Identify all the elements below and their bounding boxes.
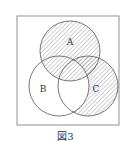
figure-caption: 図3 — [0, 128, 131, 141]
label-a: A — [66, 37, 74, 47]
label-b: B — [40, 84, 47, 94]
venn-diagram: A B C — [0, 0, 131, 141]
label-c: C — [93, 84, 100, 94]
